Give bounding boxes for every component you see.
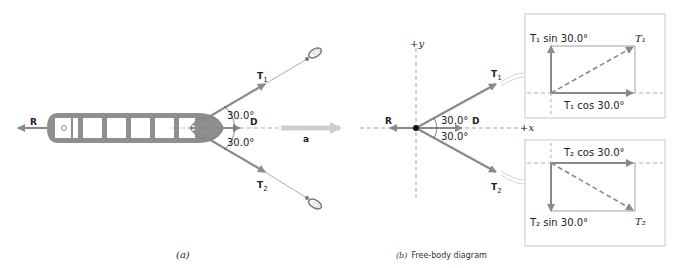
inset-t2-components: T₂ cos 30.0° T₂ sin 30.0° T₂ <box>525 140 665 246</box>
panel-a: R T1 T2 D a 30.0° 30.0° (a) <box>18 46 340 260</box>
fbd-angle-top: 30.0° <box>441 115 468 126</box>
label-t2: T2 <box>257 180 268 193</box>
label-t1: T1 <box>257 71 268 84</box>
y-axis-label: +y <box>410 38 424 49</box>
ship-hold <box>155 118 174 138</box>
angle-bottom-label: 30.0° <box>227 137 254 148</box>
ship-cabin <box>55 118 71 138</box>
fbd-label-r: R <box>385 116 392 126</box>
tugboat-hook-icon <box>305 46 323 61</box>
rope-t2 <box>265 172 307 198</box>
t1-sin-label: T₁ sin 30.0° <box>529 33 588 44</box>
rope-t1 <box>265 59 307 84</box>
ship-hold <box>107 118 126 138</box>
origin-point <box>413 125 419 131</box>
fbd-label-t2: T2 <box>491 182 502 195</box>
fbd-label-d: D <box>472 116 479 126</box>
caption-a: (a) <box>176 249 190 260</box>
inset-t1-components: T₁ sin 30.0° T₁ cos 30.0° T₁ <box>525 14 665 118</box>
fbd-label-t1: T1 <box>491 69 502 82</box>
panel-b: +y +x R D T1 T2 30.0° 30.0° T₁ sin 30.0° <box>360 14 665 260</box>
t2-cos-label: T₂ cos 30.0° <box>563 147 625 158</box>
caption-b: (b)Free-body diagram <box>396 251 487 260</box>
x-axis-label: +x <box>520 122 534 133</box>
t1-resultant-label: T₁ <box>635 33 646 44</box>
ship-hold <box>83 118 102 138</box>
fbd-angle-bottom: 30.0° <box>441 131 468 142</box>
ship-tow-diagram: R T1 T2 D a 30.0° 30.0° (a) +y +x R D T1… <box>0 0 681 268</box>
t2-sin-label: T₂ sin 30.0° <box>529 217 588 228</box>
t2-resultant-label: T₂ <box>635 216 646 227</box>
tension-t2-arrow <box>190 128 265 172</box>
label-r: R <box>30 117 37 127</box>
t1-cos-label: T₁ cos 30.0° <box>563 100 625 111</box>
angle-top-label: 30.0° <box>227 110 254 121</box>
tugboat-hook-icon <box>305 196 323 211</box>
label-a: a <box>303 134 309 144</box>
ship-hold <box>131 118 150 138</box>
